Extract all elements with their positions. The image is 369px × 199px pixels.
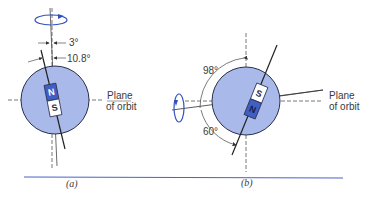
rotation-axis-b-right <box>280 90 323 96</box>
plane-of-orbit-label-b-line2: of orbit <box>329 101 360 112</box>
panel-a: N S 3° 10.8° Plane of orbit (a) <box>8 8 137 190</box>
planet-b <box>212 67 280 135</box>
plane-of-orbit-label-b-line1: Plane <box>329 90 355 101</box>
angle-label-10-8deg: 10.8° <box>67 53 90 64</box>
caption-b: (b) <box>241 177 253 189</box>
angle-marker-10-8deg <box>28 58 66 62</box>
panel-b: S N 98° 60° Plane of orbit (b) <box>172 33 360 189</box>
angle-label-60deg: 60° <box>203 126 218 137</box>
angle-label-98deg: 98° <box>203 65 218 76</box>
angle-label-3deg: 3° <box>69 37 79 48</box>
rotation-arrow-icon-b <box>174 94 184 122</box>
caption-a: (a) <box>66 178 78 190</box>
planet-magnetic-field-diagram: N S 3° 10.8° Plane of orbit (a) <box>0 0 369 199</box>
plane-of-orbit-label-a-line2: of orbit <box>106 101 137 112</box>
plane-of-orbit-label-a-line1: Plane <box>107 90 133 101</box>
